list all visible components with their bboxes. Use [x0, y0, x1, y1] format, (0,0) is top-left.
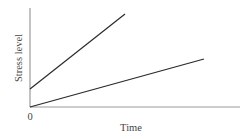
line-chart: 0 Time Stress level [0, 0, 251, 139]
series-line-steep [30, 14, 125, 89]
x-axis-label: Time [120, 122, 142, 133]
y-axis-label: Stress level [13, 34, 24, 82]
series-line-shallow [30, 59, 204, 107]
origin-tick-label: 0 [27, 111, 32, 122]
